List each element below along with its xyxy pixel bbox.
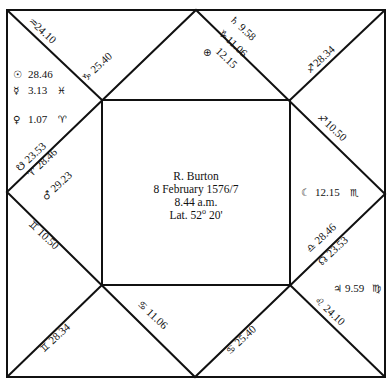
cusp-c9: ♋ 11.06 xyxy=(136,298,171,332)
cusp-c2: ♑ 25.40 xyxy=(79,49,114,83)
svg-text:28.46: 28.46 xyxy=(28,68,53,80)
cusp-c11: ♊ 10.50 xyxy=(27,218,62,252)
svg-text:25.40: 25.40 xyxy=(232,322,259,348)
svg-text:♀: ♀ xyxy=(13,114,20,125)
planet-mars: ♂ 29.23 xyxy=(39,168,74,202)
planet-venus: ♀ 1.07 ♈ xyxy=(13,113,67,125)
birth-date: 8 February 1576/7 xyxy=(154,183,239,196)
part-of-fortune-icon: ⊕ xyxy=(203,47,211,58)
svg-text:1.07: 1.07 xyxy=(28,113,48,125)
svg-text:3.13: 3.13 xyxy=(28,84,48,96)
cusp-c1: ♒ 24.10 xyxy=(27,15,60,46)
cusp-c8: ♋ 25.40 xyxy=(223,322,258,356)
diagonal-tr xyxy=(290,10,385,100)
svg-text:♏: ♏ xyxy=(350,187,359,198)
svg-text:29.23: 29.23 xyxy=(48,168,75,194)
svg-text:♈: ♈ xyxy=(58,114,67,125)
planet-sun: ☉ 28.46 xyxy=(13,68,53,80)
native-name: R. Burton xyxy=(173,170,219,182)
svg-text:24.10: 24.10 xyxy=(321,302,348,328)
svg-text:10.50: 10.50 xyxy=(35,226,62,252)
svg-text:28.34: 28.34 xyxy=(46,320,73,346)
svg-text:9.59: 9.59 xyxy=(345,282,365,294)
svg-text:♓: ♓ xyxy=(57,85,66,96)
diagonal-br xyxy=(290,285,385,377)
cusp-c10: ♊ 28.34 xyxy=(37,320,72,354)
svg-text:☾: ☾ xyxy=(301,187,310,198)
svg-text:25.40: 25.40 xyxy=(88,49,115,75)
svg-text:24.10: 24.10 xyxy=(32,20,59,46)
cusp-c5: ♐ 10.50 xyxy=(316,111,350,144)
planet-jupiter: ♃ 9.59 ♍ xyxy=(333,282,381,294)
svg-text:11.06: 11.06 xyxy=(144,306,170,332)
svg-text:28.34: 28.34 xyxy=(310,43,337,69)
svg-text:♃: ♃ xyxy=(333,283,342,294)
diagonal-tl xyxy=(7,10,102,100)
svg-text:☉: ☉ xyxy=(13,69,22,80)
svg-text:♍: ♍ xyxy=(372,283,381,294)
svg-text:☿: ☿ xyxy=(13,85,19,96)
svg-text:10.50: 10.50 xyxy=(323,118,350,144)
birth-time: 8.44 a.m. xyxy=(175,196,218,208)
planet-mercury: ☿ 3.13 ♓ xyxy=(13,84,66,96)
latitude: Lat. 52o 20' xyxy=(169,207,222,221)
planet-moon: ☾ 12.15 ♏ xyxy=(301,186,359,198)
svg-text:12.15: 12.15 xyxy=(315,186,340,198)
horoscope-chart: R. Burton 8 February 1576/7 8.44 a.m. La… xyxy=(0,0,392,382)
